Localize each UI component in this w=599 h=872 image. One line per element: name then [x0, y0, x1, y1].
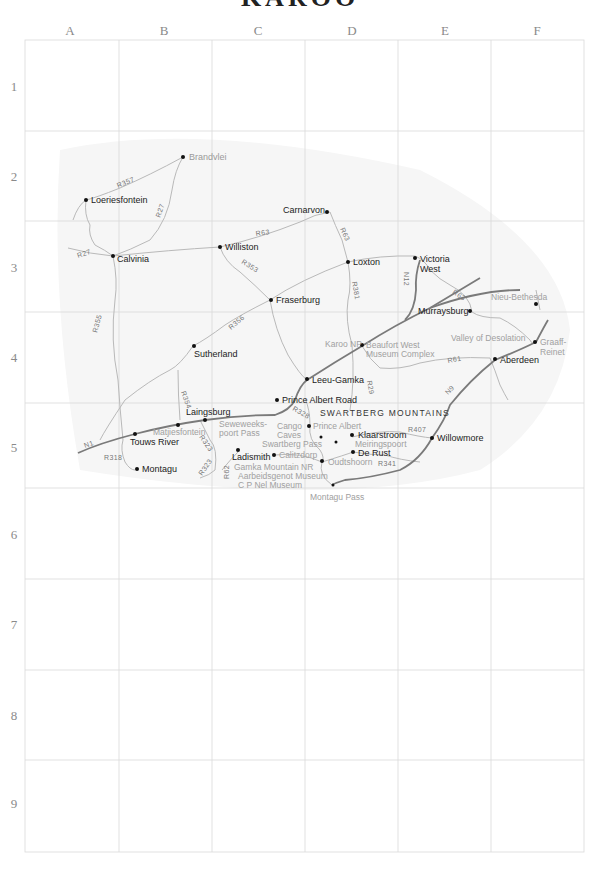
poi-nieu-bethesda: Nieu-Bethesda: [491, 292, 548, 302]
town-touws-river: Touws River: [130, 437, 179, 447]
map-canvas: KAROO A B C D E F 1 2 3 4 5 6 7 8 9: [0, 0, 599, 872]
row-label-8: 8: [11, 708, 18, 723]
row-label-2: 2: [11, 169, 18, 184]
poi-seweweekspoort-line2: poort Pass: [219, 428, 260, 438]
town-murraysburg: Murraysburg: [418, 306, 469, 316]
town-victoria-west: Victoria: [420, 254, 450, 264]
poi-calitzdorp: Calitzdorp: [279, 450, 318, 460]
row-label-6: 6: [11, 527, 18, 542]
poi-swartberg-pass: Swartberg Pass: [262, 439, 322, 449]
row-label-1: 1: [11, 79, 18, 94]
row-label-9: 9: [11, 796, 18, 811]
poi-montagu-pass: Montagu Pass: [310, 492, 364, 502]
poi-karoo-np: Karoo NP: [325, 339, 362, 349]
col-label-a: A: [65, 23, 75, 38]
col-label-e: E: [441, 23, 449, 38]
row-label-7: 7: [11, 617, 18, 632]
town-ladismith: Ladismith: [232, 452, 271, 462]
town-loeriesfontein: Loeriesfontein: [91, 195, 148, 205]
row-label-5: 5: [11, 440, 18, 455]
town-laingsburg: Laingsburg: [186, 407, 231, 417]
poi-oudtshoorn: Oudtshoorn: [328, 457, 373, 467]
row-labels: 1 2 3 4 5 6 7 8 9: [11, 79, 18, 811]
poi-beaufort-west-line2: Museum Complex: [366, 349, 435, 359]
town-williston: Williston: [225, 242, 259, 252]
row-label-4: 4: [11, 350, 18, 365]
poi-prince-albert: Prince Albert: [313, 421, 362, 431]
poi-meiringspoort: Meiringspoort: [355, 439, 407, 449]
col-label-c: C: [254, 23, 263, 38]
road-label-r407: R407: [408, 426, 426, 433]
town-montagu: Montagu: [142, 464, 177, 474]
poi-graaff-reinet-line2: Reinet: [540, 347, 565, 357]
column-labels: A B C D E F: [65, 23, 540, 38]
town-loxton: Loxton: [353, 257, 380, 267]
town-brandvlei: Brandvlei: [189, 152, 227, 162]
town-prince-albert-road: Prince Albert Road: [282, 395, 357, 405]
road-label-r318: R318: [104, 454, 122, 461]
region-swartberg-mountains: SWARTBERG MOUNTAINS: [320, 408, 450, 418]
town-carnarvon: Carnarvon: [283, 205, 325, 215]
town-aberdeen: Aberdeen: [500, 355, 539, 365]
col-label-d: D: [347, 23, 356, 38]
road-label-n12: N12: [403, 272, 410, 286]
road-label-r62: R62: [223, 465, 230, 479]
town-willowmore: Willowmore: [437, 433, 484, 443]
col-label-b: B: [160, 23, 169, 38]
town-fraserburg: Fraserburg: [276, 295, 320, 305]
map-title: KAROO: [241, 0, 359, 12]
poi-cp-nel-museum: C P Nel Museum: [238, 480, 302, 490]
poi-matjiesfontein: Matjiesfontein: [153, 427, 206, 437]
town-calvinia: Calvinia: [117, 254, 149, 264]
poi-graaff-reinet: Graaff-: [540, 337, 566, 347]
town-sutherland: Sutherland: [194, 349, 238, 359]
town-victoria-west-line2: West: [420, 264, 441, 274]
row-label-3: 3: [11, 260, 18, 275]
poi-valley-of-desolation: Valley of Desolation: [451, 333, 526, 343]
town-leeu-gamka: Leeu-Gamka: [312, 375, 364, 385]
col-label-f: F: [533, 23, 540, 38]
road-label-r341: R341: [378, 460, 396, 467]
